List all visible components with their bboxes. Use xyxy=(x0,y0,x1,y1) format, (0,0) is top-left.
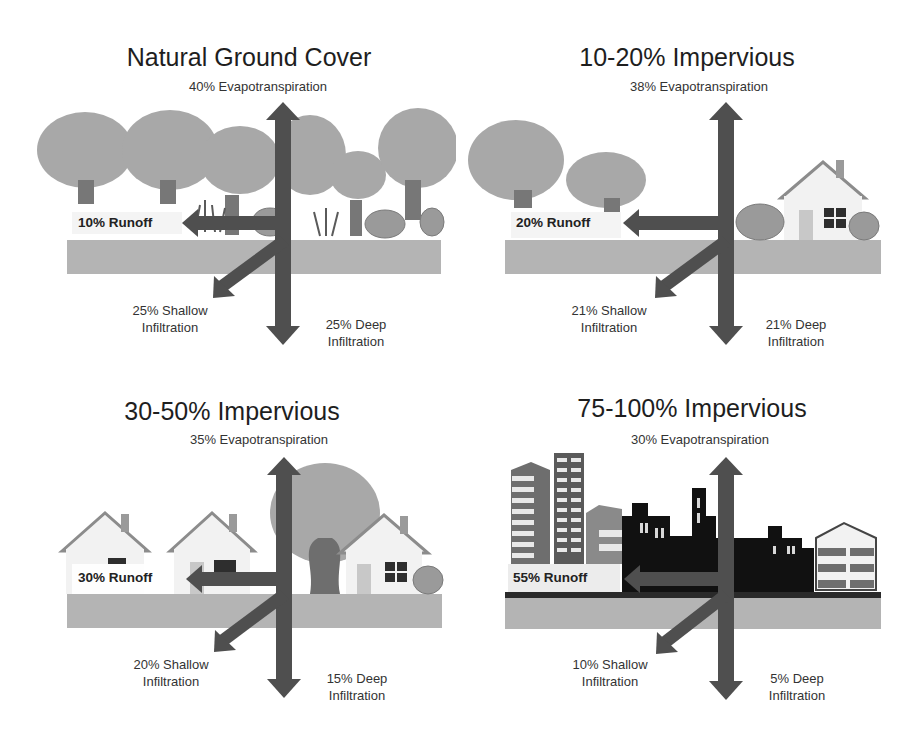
panel-10-20-impervious: 10-20% Impervious 38% Evapotranspiration… xyxy=(456,0,912,368)
urban-scene-illustration xyxy=(456,368,912,737)
runoff-label: 55% Runoff xyxy=(513,570,587,585)
tree-icon xyxy=(37,108,456,199)
shrub-icon xyxy=(413,566,443,594)
deep-infiltration-label: 5% Deep Infiltration xyxy=(769,670,825,704)
panel-30-50-impervious: 30-50% Impervious 35% Evapotranspiration… xyxy=(0,368,456,736)
deep-infiltration-label: 15% Deep Infiltration xyxy=(327,670,388,704)
building-icon xyxy=(816,523,876,590)
evapotranspiration-label: 38% Evapotranspiration xyxy=(630,79,768,94)
panel-title: Natural Ground Cover xyxy=(127,43,372,72)
deep-infiltration-label: 21% Deep Infiltration xyxy=(766,316,827,350)
shallow-infiltration-label: 20% Shallow Infiltration xyxy=(133,656,208,690)
evapotranspiration-label: 30% Evapotranspiration xyxy=(631,432,769,447)
runoff-label: 30% Runoff xyxy=(78,570,152,585)
runoff-label: 10% Runoff xyxy=(78,215,152,230)
shallow-infiltration-label: 25% Shallow Infiltration xyxy=(132,302,207,336)
runoff-label: 20% Runoff xyxy=(516,215,590,230)
building-icon xyxy=(586,505,622,564)
shallow-infiltration-label: 10% Shallow Infiltration xyxy=(572,656,647,690)
building-icon xyxy=(511,462,550,564)
panel-title: 30-50% Impervious xyxy=(124,397,339,426)
shallow-infiltration-label: 21% Shallow Infiltration xyxy=(571,302,646,336)
tree-icon xyxy=(468,120,646,208)
panel-75-100-impervious: 75-100% Impervious 30% Evapotranspiratio… xyxy=(456,368,912,736)
panel-title: 75-100% Impervious xyxy=(577,394,806,423)
building-icon xyxy=(554,453,584,564)
evapotranspiration-label: 40% Evapotranspiration xyxy=(189,79,327,94)
evapotranspiration-label: 35% Evapotranspiration xyxy=(190,432,328,447)
panel-title: 10-20% Impervious xyxy=(579,43,794,72)
panel-natural-ground-cover: Natural Ground Cover 40% Evapotranspirat… xyxy=(0,0,456,368)
deep-infiltration-label: 25% Deep Infiltration xyxy=(326,316,387,350)
